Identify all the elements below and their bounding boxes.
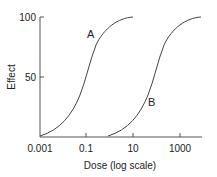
curve-b-label: B — [148, 96, 155, 108]
x-tick-label-1000: 1000 — [169, 143, 192, 154]
dose-response-chart: 100 50 0.001 0.1 10 1000 Dose (log scale… — [0, 0, 217, 177]
curve-b — [108, 17, 201, 136]
y-axis-label: Effect — [6, 64, 17, 90]
x-tick-label-0.1: 0.1 — [79, 143, 93, 154]
x-tick-label-0.001: 0.001 — [27, 143, 52, 154]
x-tick-label-10: 10 — [127, 143, 139, 154]
curve-a-label: A — [87, 28, 95, 40]
y-tick-label-50: 50 — [25, 72, 37, 83]
x-axis-label: Dose (log scale) — [84, 160, 156, 171]
y-tick-label-100: 100 — [19, 12, 36, 23]
